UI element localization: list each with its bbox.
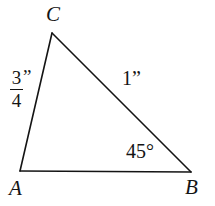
vertex-label-c: C [46, 4, 60, 25]
angle-label-b: 45° [126, 141, 154, 161]
inch-mark-icon: ” [23, 67, 31, 86]
segment-CB [52, 33, 191, 172]
fraction-numerator: 3 [11, 68, 23, 88]
vertex-label-b: B [185, 177, 198, 198]
fraction: 3 4 [10, 68, 23, 111]
fraction-denominator: 4 [11, 91, 23, 111]
side-length-label-ac: 3 4 ” [10, 68, 31, 111]
triangle-figure [0, 0, 215, 206]
vertex-label-a: A [9, 178, 22, 199]
triangle-outline [20, 33, 191, 172]
side-length-label-cb: 1” [122, 68, 141, 88]
fraction-three-quarters: 3 4 ” [10, 68, 31, 111]
segment-AB [20, 171, 191, 172]
